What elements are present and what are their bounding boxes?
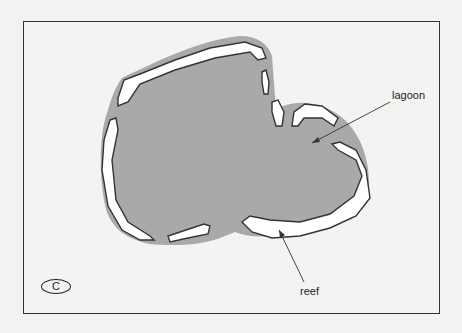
lagoon-label: lagoon xyxy=(392,89,425,101)
panel-label-badge: C xyxy=(41,279,71,294)
reef-pointer xyxy=(279,230,304,282)
reef-label: reef xyxy=(300,285,319,297)
